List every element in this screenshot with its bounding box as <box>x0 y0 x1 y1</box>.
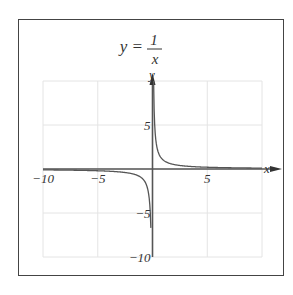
svg-text:5: 5 <box>204 171 211 186</box>
tick-labels: −10−555−5−10 <box>32 118 211 265</box>
svg-text:−10: −10 <box>32 171 54 186</box>
svg-text:−10: −10 <box>129 250 151 265</box>
svg-text:5: 5 <box>144 118 151 133</box>
title-denominator: x <box>151 51 159 67</box>
svg-text:−5: −5 <box>90 171 106 186</box>
chart-svg: −10−555−5−10 y = 1 x y x <box>0 0 293 295</box>
svg-text:−5: −5 <box>135 206 151 221</box>
title-lhs: y = <box>118 37 143 56</box>
x-axis-label: x <box>263 161 270 176</box>
axes <box>43 73 282 257</box>
title-numerator: 1 <box>150 32 158 48</box>
y-axis-label: y <box>147 67 155 82</box>
